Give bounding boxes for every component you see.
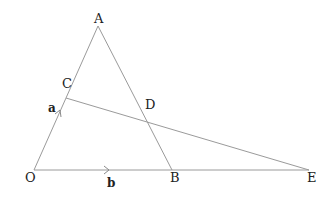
label-D: D xyxy=(145,97,155,112)
diagram-canvas: A C D O B E a b xyxy=(0,0,335,198)
label-O: O xyxy=(25,170,36,185)
label-E: E xyxy=(307,170,317,185)
label-C: C xyxy=(62,76,72,91)
segment-AB xyxy=(98,26,172,170)
vector-label-b: b xyxy=(107,176,115,190)
label-A: A xyxy=(93,11,104,26)
diagram-svg: A C D O B E a b xyxy=(0,0,335,198)
vector-label-a: a xyxy=(48,101,56,115)
segment-CE xyxy=(66,98,309,170)
label-B: B xyxy=(170,170,180,185)
